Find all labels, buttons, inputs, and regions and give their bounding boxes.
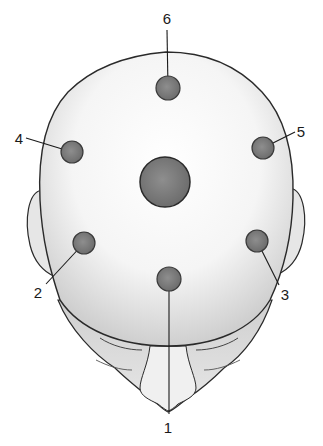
label-6: 6	[163, 10, 171, 27]
label-5: 5	[297, 123, 305, 140]
point-6	[156, 76, 180, 100]
point-5	[252, 137, 274, 159]
label-2: 2	[34, 284, 42, 301]
center-point	[140, 157, 190, 207]
label-4: 4	[15, 130, 23, 147]
point-4	[61, 141, 83, 163]
point-3	[246, 230, 268, 252]
label-3: 3	[281, 286, 289, 303]
head-diagram: 1 2 3 4 5 6	[0, 0, 323, 446]
label-1: 1	[164, 419, 172, 436]
point-2	[73, 232, 95, 254]
point-1	[157, 267, 181, 291]
